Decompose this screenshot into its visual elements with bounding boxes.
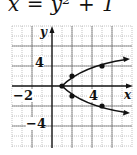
point-2-1 bbox=[69, 73, 74, 78]
y-tick-neg4: −4 bbox=[26, 116, 46, 131]
y-tick-4: 4 bbox=[35, 55, 44, 70]
x-tick-4: 4 bbox=[89, 88, 98, 103]
point-5-neg2 bbox=[99, 103, 104, 108]
x-axis-label: x bbox=[123, 88, 132, 102]
y-axis-label: y bbox=[39, 25, 48, 39]
x-tick-neg2: −2 bbox=[13, 88, 33, 103]
point-1-0 bbox=[59, 83, 64, 88]
y-axis-arrow-icon bbox=[50, 26, 55, 33]
point-2-neg1 bbox=[69, 93, 74, 98]
graph: 4 −4 −2 4 x y bbox=[0, 0, 137, 155]
point-5-2 bbox=[99, 63, 104, 68]
curve-arrow-bottom-icon bbox=[123, 110, 130, 116]
curve-arrow-top-icon bbox=[123, 57, 130, 63]
